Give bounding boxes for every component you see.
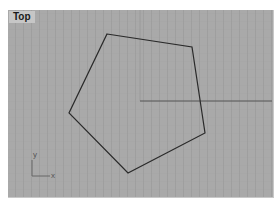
top-viewport[interactable]: Top <box>8 10 274 198</box>
viewport-title-top[interactable]: Top <box>9 11 35 23</box>
axis-icon-y-label: y <box>33 151 37 159</box>
axis-icon-x-label: x <box>51 172 55 180</box>
